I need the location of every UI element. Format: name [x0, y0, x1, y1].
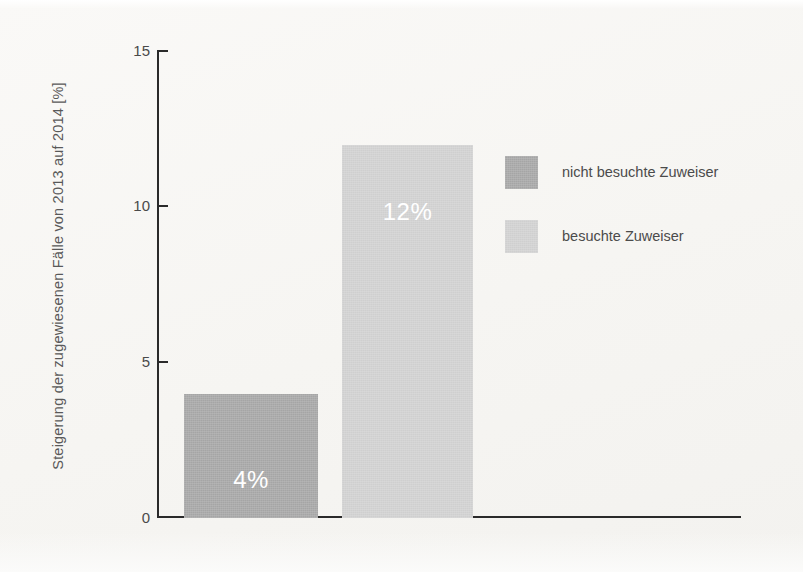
legend-swatch-icon-2: [505, 220, 538, 253]
y-axis-title: Steigerung der zugewiesenen Fälle von 20…: [50, 66, 66, 486]
y-tick-label-0: 0: [110, 509, 150, 526]
bar-besuchte-zuweiser[interactable]: 12%: [342, 145, 473, 518]
legend: nicht besuchte Zuweiser besuchte Zuweise…: [505, 140, 718, 268]
scan-edge-bottom: [0, 532, 803, 572]
legend-swatch-texture-1: [505, 156, 538, 189]
y-tick-mark-15: [159, 50, 168, 52]
legend-item-nicht-besuchte-zuweiser[interactable]: nicht besuchte Zuweiser: [505, 140, 718, 204]
scan-edge-top: [0, 0, 803, 9]
bar-value-label-1: 4%: [184, 466, 318, 494]
bar-value-label-2: 12%: [342, 198, 473, 226]
bar-chart-figure: Steigerung der zugewiesenen Fälle von 20…: [0, 0, 803, 572]
y-tick-label-15: 15: [110, 42, 150, 59]
legend-swatch-texture-2: [505, 220, 538, 253]
legend-swatch-icon-1: [505, 156, 538, 189]
bar-texture-1: [184, 394, 318, 518]
legend-label-2: besuchte Zuweiser: [562, 228, 684, 244]
bar-nicht-besuchte-zuweiser[interactable]: 4%: [184, 394, 318, 518]
y-tick-label-10: 10: [110, 197, 150, 214]
y-tick-label-5: 5: [110, 353, 150, 370]
y-axis-line: [157, 50, 159, 518]
y-tick-mark-10: [159, 205, 168, 207]
y-tick-mark-5: [159, 361, 168, 363]
legend-item-besuchte-zuweiser[interactable]: besuchte Zuweiser: [505, 204, 718, 268]
legend-label-1: nicht besuchte Zuweiser: [562, 164, 718, 180]
